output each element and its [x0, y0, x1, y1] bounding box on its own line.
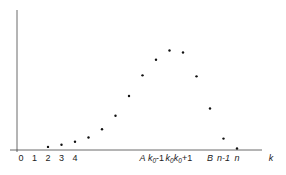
data-point — [74, 141, 76, 143]
data-point — [209, 107, 211, 109]
x-tick-label: B — [207, 153, 213, 163]
data-point — [101, 128, 103, 130]
data-point — [155, 59, 157, 61]
x-tick-label: k0+1 — [174, 153, 192, 164]
data-point — [182, 51, 184, 53]
x-tick-label: n-1 — [217, 153, 230, 163]
x-tick-label: k0 — [165, 153, 174, 164]
x-tick-label: A — [138, 153, 145, 163]
data-point — [236, 147, 238, 149]
data-point — [47, 146, 49, 148]
data-point — [60, 144, 62, 146]
data-point — [141, 74, 143, 76]
x-tick-label: 4 — [72, 153, 77, 163]
x-tick-label: 2 — [45, 153, 50, 163]
x-axis-label: k — [269, 153, 274, 163]
chart: 01234Ak0-1k0k0+1Bn-1n k — [0, 0, 286, 175]
x-tick-label: 0 — [18, 153, 23, 163]
x-tick-label: 1 — [32, 153, 37, 163]
data-point — [195, 75, 197, 77]
data-point — [168, 49, 170, 51]
data-point — [222, 137, 224, 139]
x-tick-label: 3 — [59, 153, 64, 163]
data-point — [128, 95, 130, 97]
data-points — [47, 49, 238, 149]
data-point — [87, 136, 89, 138]
x-tick-label: n — [234, 153, 239, 163]
x-tick-labels: 01234Ak0-1k0k0+1Bn-1n — [18, 153, 239, 164]
data-point — [114, 115, 116, 117]
x-tick-label: k0-1 — [148, 153, 164, 164]
